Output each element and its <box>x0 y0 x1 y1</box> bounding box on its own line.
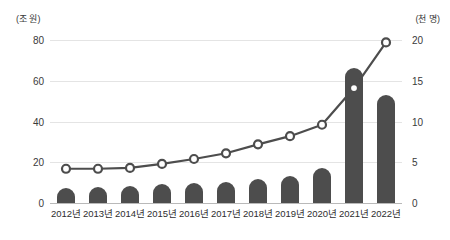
left-tick-20: 20 <box>18 157 44 168</box>
bar-2021년 <box>345 68 363 203</box>
x-label-2015년: 2015년 <box>147 206 177 220</box>
bar-2017년 <box>217 182 235 203</box>
right-tick-5: 5 <box>412 157 438 168</box>
x-label-2021년: 2021년 <box>339 206 369 220</box>
right-tick-15: 15 <box>412 75 438 86</box>
line-marker-2014년 <box>126 164 134 172</box>
bar-2012년 <box>57 188 75 203</box>
line-path <box>66 42 386 168</box>
line-marker-2016년 <box>190 155 198 163</box>
line-marker-2020년 <box>318 121 326 129</box>
bar-2014년 <box>121 186 139 203</box>
line-marker-2017년 <box>222 149 230 157</box>
left-tick-80: 80 <box>18 35 44 46</box>
bar-2016년 <box>185 183 203 203</box>
plot-area <box>50 40 402 203</box>
bar-2020년 <box>313 168 331 203</box>
bar-2015년 <box>153 184 171 203</box>
line-marker-2013년 <box>94 165 102 173</box>
bar-2022년 <box>377 95 395 203</box>
x-label-2012년: 2012년 <box>51 206 81 220</box>
x-label-2018년: 2018년 <box>243 206 273 220</box>
bar-2013년 <box>89 187 107 203</box>
left-tick-60: 60 <box>18 75 44 86</box>
line-marker-2015년 <box>158 160 166 168</box>
bar-2018년 <box>249 179 267 203</box>
left-tick-0: 0 <box>18 198 44 209</box>
right-tick-0: 0 <box>412 198 438 209</box>
line-marker-2019년 <box>286 132 294 140</box>
x-label-2014년: 2014년 <box>115 206 145 220</box>
x-label-2013년: 2013년 <box>83 206 113 220</box>
gridline-0 <box>50 203 402 204</box>
chart-container: (조 원) (천 명) 020406080 05101520 2012년2013… <box>0 0 450 240</box>
line-markers <box>62 38 390 172</box>
x-label-2016년: 2016년 <box>179 206 209 220</box>
x-label-2019년: 2019년 <box>275 206 305 220</box>
line-marker-2022년 <box>382 38 390 46</box>
x-label-2017년: 2017년 <box>211 206 241 220</box>
right-tick-20: 20 <box>412 35 438 46</box>
x-label-2020년: 2020년 <box>307 206 337 220</box>
x-label-2022년: 2022년 <box>371 206 401 220</box>
left-tick-40: 40 <box>18 116 44 127</box>
bar-2019년 <box>281 176 299 204</box>
line-marker-2012년 <box>62 165 70 173</box>
left-axis-unit-label: (조 원) <box>16 12 41 25</box>
line-marker-2018년 <box>254 140 262 148</box>
right-tick-10: 10 <box>412 116 438 127</box>
right-axis-unit-label: (천 명) <box>416 12 441 25</box>
